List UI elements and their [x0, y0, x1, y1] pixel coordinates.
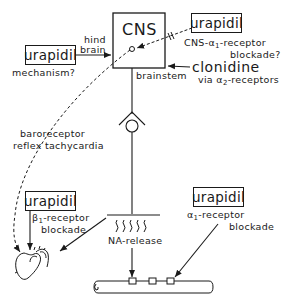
caption-prefix: CNS- [184, 37, 208, 48]
na-release-squiggles [116, 220, 146, 232]
na-release-label: NA-release [108, 236, 162, 246]
urapidil-beta1-drug: urapidil [24, 193, 77, 209]
urapidil-alpha1-box: urapidil [193, 187, 244, 207]
clonidine-arrow [168, 66, 190, 67]
cns-label: CNS [122, 22, 157, 38]
urapidil-cns-drug: urapidil [190, 15, 243, 31]
urapidil-mechanism-box: urapidil [25, 45, 76, 65]
baroreceptor-label-line1: baroreceptor [20, 129, 85, 139]
hindbrain-label-line2: brain [80, 45, 106, 55]
caption-suffix: -receptor [43, 212, 89, 223]
urapidil-beta1-box: urapidil [25, 191, 76, 211]
caption-suffix: -receptor [198, 209, 244, 220]
baroreceptor-label-line2: reflex tachycardia [13, 141, 104, 151]
urapidil-mechanism-drug: urapidil [24, 47, 77, 63]
heart-icon [15, 246, 48, 279]
cns-receptor-circle [130, 47, 135, 52]
blood-vessel-icon [94, 278, 213, 293]
caption-prefix: via [198, 74, 216, 85]
clonidine-caption: via α2-receptors [198, 75, 279, 87]
urapidil-mechanism-caption: mechanism? [12, 68, 75, 78]
clonidine-label: clonidine [192, 60, 260, 74]
urapidil-alpha1-drug: urapidil [192, 189, 245, 205]
caption-suffix: -receptors [228, 74, 279, 85]
urapidil-cns-box: urapidil [191, 13, 242, 33]
alpha1-blockade-arrow [175, 224, 218, 277]
urapidil-alpha1-caption-line2: blockade [229, 222, 274, 232]
ganglion-circle [126, 120, 138, 132]
urapidil-beta1-caption-line2: blockade [41, 225, 86, 235]
caption-suffix: -receptor [220, 37, 266, 48]
brainstem-label: brainstem [136, 71, 187, 81]
